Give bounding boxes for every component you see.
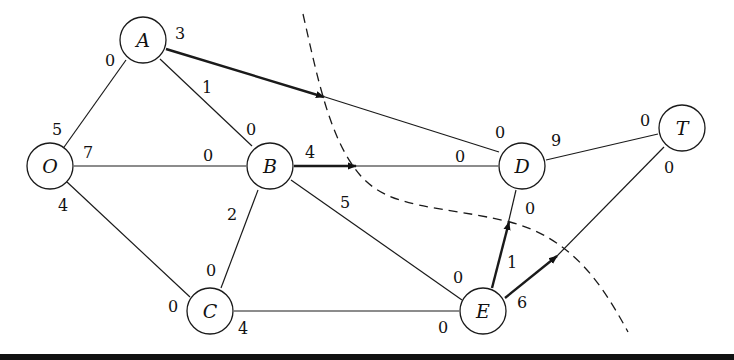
node-T: T <box>659 105 705 151</box>
cap-B-C-at-B: 2 <box>227 205 237 224</box>
svg-text:O: O <box>42 155 58 177</box>
cap-O-A-at-O: 5 <box>52 120 62 139</box>
cap-A-B-at-B: 0 <box>246 120 256 139</box>
node-A: A <box>120 17 166 63</box>
cap-O-C-at-O: 4 <box>58 196 68 215</box>
node-C: C <box>187 288 233 334</box>
edge-B-E <box>291 180 462 300</box>
svg-text:A: A <box>134 29 150 51</box>
cap-E-D-at-E: 1 <box>507 253 517 272</box>
cap-A-D-at-D: 0 <box>495 123 505 142</box>
svg-text:B: B <box>262 155 277 177</box>
cap-B-E-at-E: 0 <box>453 268 463 287</box>
cap-A-B-at-A: 1 <box>202 78 212 97</box>
cap-A-D-at-A: 3 <box>175 24 185 43</box>
node-E: E <box>460 288 506 334</box>
svg-text:D: D <box>513 155 529 177</box>
node-O: O <box>27 143 73 189</box>
cap-O-A-at-A: 0 <box>105 51 115 70</box>
cap-B-D-at-B: 4 <box>305 143 315 162</box>
edge-A-D-flow <box>166 49 324 97</box>
edge-E-T-rest <box>555 147 664 258</box>
network-diagram: O A B C D E T 5 0 7 0 4 0 1 0 3 0 2 0 4 … <box>0 0 734 360</box>
node-D: D <box>499 143 545 189</box>
cap-O-B-at-O: 7 <box>83 143 93 162</box>
cap-D-T-at-D: 9 <box>551 131 561 150</box>
edge-D-T <box>546 134 658 160</box>
edge-O-C <box>67 182 190 297</box>
cap-B-C-at-C: 0 <box>206 261 216 280</box>
edge-E-D-rest <box>508 190 516 224</box>
cap-B-E-at-B: 5 <box>340 193 350 212</box>
cap-D-T-at-T: 0 <box>640 111 650 130</box>
bottom-border <box>0 354 734 360</box>
cap-O-C-at-C: 0 <box>168 297 178 316</box>
cut-line <box>303 14 628 332</box>
cap-C-E-at-E: 0 <box>438 318 448 337</box>
svg-text:T: T <box>676 117 690 139</box>
edge-O-A <box>62 60 126 150</box>
cap-E-T-at-E: 6 <box>517 293 527 312</box>
cap-B-D-at-D: 0 <box>455 147 465 166</box>
cap-O-B-at-B: 0 <box>203 146 213 165</box>
node-B: B <box>247 143 293 189</box>
cap-E-D-at-D: 0 <box>525 199 535 218</box>
svg-text:C: C <box>203 300 218 322</box>
cap-C-E-at-C: 4 <box>238 319 248 338</box>
edge-A-D-rest <box>322 96 499 152</box>
cap-E-T-at-T: 0 <box>664 158 674 177</box>
svg-text:E: E <box>475 300 490 322</box>
